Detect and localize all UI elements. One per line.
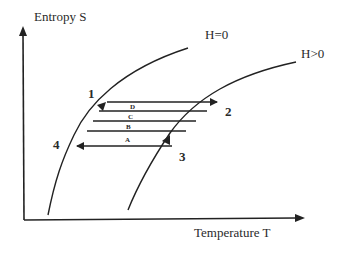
x-axis-arrow-icon (295, 214, 305, 222)
x-axis (24, 218, 296, 220)
point-2-label: 2 (225, 105, 232, 118)
curve-h0-label: H=0 (205, 28, 228, 41)
y-axis (23, 34, 24, 220)
point-3-label: 3 (179, 150, 186, 163)
curve-hpos (128, 62, 296, 210)
point-1-label: 1 (88, 87, 95, 100)
curve-hpos-label: H>0 (301, 47, 324, 60)
segment-d-label: D (130, 104, 135, 111)
x-axis-label: Temperature T (194, 226, 270, 239)
y-axis-label: Entropy S (34, 10, 86, 23)
segment-a-label: A (125, 137, 130, 144)
arrow-4-to-1-icon (97, 102, 106, 111)
segment-c-label: C (128, 114, 133, 121)
y-axis-arrow-icon (19, 26, 27, 36)
point-4-label: 4 (53, 138, 60, 151)
segment-b-label: B (126, 124, 131, 131)
cycle-diagram (0, 0, 343, 263)
